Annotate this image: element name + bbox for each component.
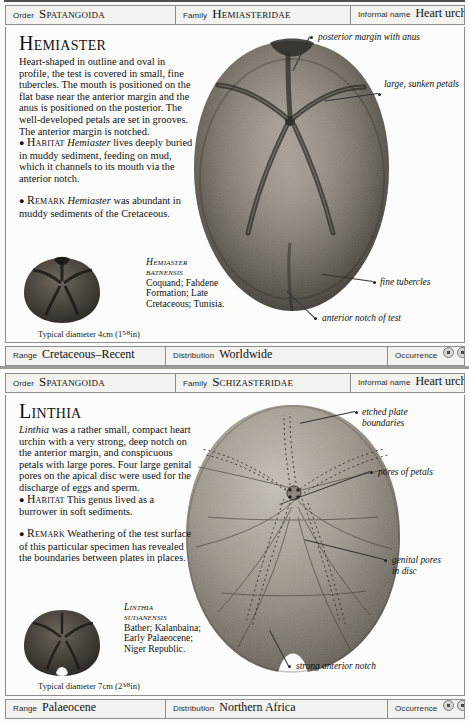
annotation-dot	[373, 281, 376, 284]
bullet-icon: ●	[19, 495, 24, 505]
remark-genus: Hemiaster	[67, 195, 110, 206]
habitat-paragraph: ● Habitat Hemiaster lives deeply buried …	[19, 137, 194, 184]
distribution-label: Distribution	[173, 704, 214, 713]
informal-name-label: Informal name	[358, 10, 410, 19]
thumbnail-caption-end: in)	[130, 681, 140, 691]
entry-hemiaster: Order Spatangoida Family Hemiasteridae I…	[0, 0, 469, 368]
bullet-icon: ●	[19, 138, 24, 148]
genus-title: Linthia	[19, 401, 194, 422]
thumbnail-caption-text: Typical diameter 7cm (2	[38, 681, 122, 691]
occurrence-label: Occurrence	[395, 704, 437, 713]
specimen-detail: Coquand; Fahdene Formation; Late Cretace…	[146, 278, 238, 309]
informal-name-cell: Informal name Heart urchin	[351, 6, 464, 24]
family-cell: Family Hemiasteridae	[176, 6, 351, 24]
family-label: Family	[183, 11, 207, 20]
annotation-dot	[384, 559, 387, 562]
range-cell: Range Cretaceous–Recent	[6, 347, 166, 365]
range-value: Palaeocene	[42, 700, 96, 715]
order-value: Spatangoida	[39, 374, 105, 390]
specimen-label-hemiaster: Hemiaster batnensis Coquand; Fahdene For…	[146, 257, 238, 309]
annotation-anterior-notch: anterior notch of test	[322, 313, 462, 324]
thumbnail-block-hemiaster: Typical diameter 4cm (15⁄8in)	[20, 255, 104, 325]
fossil-reference-page: Order Spatangoida Family Hemiasteridae I…	[0, 0, 469, 721]
entry-linthia: Order Spatangoida Family Schizasteridae …	[0, 368, 469, 721]
informal-name-value: Heart urchin	[415, 374, 464, 389]
occurrence-label: Occurrence	[395, 351, 437, 360]
informal-name-cell: Informal name Heart urchin	[351, 374, 464, 392]
order-cell: Order Spatangoida	[6, 6, 176, 24]
bullet-icon: ●	[19, 529, 24, 539]
order-label: Order	[13, 379, 34, 388]
occurrence-cell: Occurrence	[388, 347, 464, 365]
annotation-fine-tubercles: fine tubercles	[380, 277, 440, 288]
occurrence-cell: Occurrence	[388, 700, 464, 718]
distribution-value: Worldwide	[219, 347, 272, 362]
range-footer-bar: Range Cretaceous–Recent Distribution Wor…	[5, 346, 465, 366]
annotation-dot	[355, 411, 358, 414]
occurrence-rating	[443, 347, 464, 358]
informal-name-label: Informal name	[358, 378, 410, 387]
distribution-cell: Distribution Northern Africa	[166, 700, 388, 718]
distribution-label: Distribution	[173, 351, 214, 360]
annotation-strong-anterior-notch: strong anterior notch	[296, 661, 436, 672]
occurrence-rating	[443, 700, 464, 711]
taxonomy-header-bar: Order Spatangoida Family Hemiasteridae I…	[5, 5, 465, 25]
family-value: Schizasteridae	[212, 374, 293, 390]
distribution-value: Northern Africa	[219, 700, 295, 715]
habitat-genus: Hemiaster	[67, 137, 110, 148]
description-paragraph: Linthia was a rather small, compact hear…	[19, 424, 194, 494]
entry-body: Linthia Linthia was a rather small, comp…	[5, 395, 465, 696]
thumbnail-caption: Typical diameter 7cm (23⁄8in)	[14, 681, 164, 691]
remark-paragraph: ● Remark Weathering of the test surface …	[19, 528, 194, 564]
remark-label: Remark	[27, 194, 65, 207]
bullet-icon: ●	[19, 196, 24, 206]
habitat-label: Habitat	[27, 493, 65, 506]
range-cell: Range Palaeocene	[6, 700, 166, 718]
description-column: Linthia Linthia was a rather small, comp…	[19, 401, 194, 574]
family-cell: Family Schizasteridae	[176, 374, 351, 392]
range-value: Cretaceous–Recent	[42, 347, 135, 362]
thumbnail-block-linthia: Typical diameter 7cm (23⁄8in)	[20, 607, 104, 677]
order-cell: Order Spatangoida	[6, 374, 176, 392]
remark-paragraph: ● Remark Hemiaster was abundant in muddy…	[19, 195, 194, 219]
description-genus: Linthia	[19, 424, 49, 435]
specimen-detail: Bather; Kalanbaina; Early Palaeocene; Ni…	[124, 623, 216, 654]
annotation-dot	[370, 471, 373, 474]
range-footer-bar: Range Palaeocene Distribution Northern A…	[5, 699, 465, 719]
specimen-label-linthia: Linthia sudanensis Bather; Kalanbaina; E…	[124, 602, 216, 654]
occurrence-icon	[457, 347, 464, 358]
thumbnail-image	[20, 255, 104, 325]
annotation-etched-plate-boundaries: etched plate boundaries	[362, 407, 426, 428]
annotation-posterior-margin: posterior margin with anus	[318, 32, 465, 43]
family-label: Family	[183, 379, 207, 388]
annotation-dot	[378, 93, 381, 96]
genus-title: Hemiaster	[19, 33, 194, 54]
annotation-genital-pores: genital pores in disc	[392, 555, 448, 576]
page-top-rule	[4, 0, 465, 2]
habitat-label: Habitat	[27, 136, 65, 149]
thumbnail-caption-end: in)	[130, 329, 140, 339]
order-label: Order	[13, 11, 34, 20]
range-label: Range	[13, 351, 37, 360]
distribution-cell: Distribution Worldwide	[166, 347, 388, 365]
annotation-dot	[310, 36, 313, 39]
taxonomy-header-bar: Order Spatangoida Family Schizasteridae …	[5, 373, 465, 393]
family-value: Hemiasteridae	[212, 6, 290, 22]
occurrence-icon	[443, 700, 454, 711]
thumbnail-caption: Typical diameter 4cm (15⁄8in)	[14, 329, 164, 339]
occurrence-icon	[443, 347, 454, 358]
range-label: Range	[13, 704, 37, 713]
description-text: Heart-shaped in outline and oval in prof…	[19, 56, 194, 137]
annotation-large-sunken-petals: large, sunken petals	[384, 79, 465, 90]
informal-name-value: Heart urchin	[415, 6, 464, 21]
description-column: Hemiaster Heart-shaped in outline and ov…	[19, 33, 194, 230]
occurrence-icon	[457, 700, 464, 711]
remark-label: Remark	[27, 527, 65, 540]
thumbnail-image	[20, 607, 104, 677]
thumbnail-caption-text: Typical diameter 4cm (1	[38, 329, 122, 339]
annotation-pores-of-petals: pores of petals	[378, 467, 465, 478]
habitat-paragraph: ● Habitat This genus lived as a burrower…	[19, 494, 194, 518]
entry-body: Hemiaster Heart-shaped in outline and ov…	[5, 27, 465, 343]
order-value: Spatangoida	[39, 6, 105, 22]
